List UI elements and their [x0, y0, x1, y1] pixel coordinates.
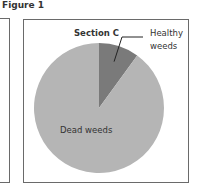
healthy-weeds-label-line1: Healthy [150, 28, 183, 38]
dead-weeds-label: Dead weeds [60, 125, 113, 135]
pie-slice-dead-weeds [34, 43, 164, 173]
pie-chart: Section C Healthy weeds Dead weeds [0, 0, 198, 193]
chart-title: Section C [74, 28, 119, 38]
healthy-weeds-label-line2: weeds [150, 41, 178, 51]
